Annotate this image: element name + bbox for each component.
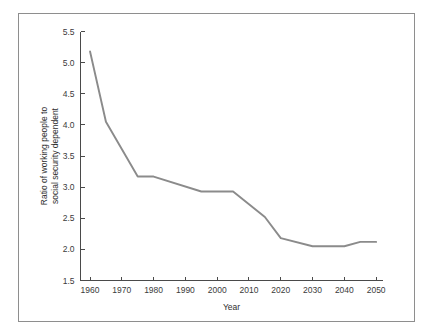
- y-axis-title-line2: social security dependent: [50, 107, 60, 204]
- x-tick-label: 2010: [240, 285, 259, 295]
- y-tick-label: 3.5: [63, 151, 75, 161]
- x-tick-label: 2020: [271, 285, 290, 295]
- x-tick-label: 2050: [367, 285, 386, 295]
- x-axis-tick-labels: 1960197019801990200020102020203020402050: [81, 285, 386, 295]
- y-axis-title-line1: Ratio of working people to: [39, 107, 49, 206]
- y-tick-label: 1.5: [63, 276, 75, 286]
- x-tick-label: 2030: [303, 285, 322, 295]
- y-tick-label: 5.0: [63, 58, 75, 68]
- x-axis-ticks: [90, 277, 376, 281]
- x-tick-label: 1980: [144, 285, 163, 295]
- y-tick-label: 2.0: [63, 244, 75, 254]
- y-tick-label: 2.5: [63, 213, 75, 223]
- x-tick-label: 1990: [176, 285, 195, 295]
- y-tick-label: 4.5: [63, 89, 75, 99]
- x-tick-label: 1960: [81, 285, 100, 295]
- x-axis-title: Year: [223, 302, 240, 312]
- figure-container: 1.52.02.53.03.54.04.55.05.5 196019701980…: [0, 0, 437, 335]
- y-axis-ticks: [81, 32, 85, 281]
- y-tick-label: 3.0: [63, 182, 75, 192]
- line-chart: 1.52.02.53.03.54.04.55.05.5 196019701980…: [0, 0, 437, 335]
- data-series-group: [90, 51, 376, 246]
- y-tick-label: 4.0: [63, 120, 75, 130]
- x-tick-label: 2000: [208, 285, 227, 295]
- x-tick-label: 1970: [112, 285, 131, 295]
- y-tick-label: 5.5: [63, 27, 75, 37]
- x-tick-label: 2040: [335, 285, 354, 295]
- y-axis-tick-labels: 1.52.02.53.03.54.04.55.05.5: [63, 27, 75, 286]
- data-line-ratio: [90, 51, 376, 246]
